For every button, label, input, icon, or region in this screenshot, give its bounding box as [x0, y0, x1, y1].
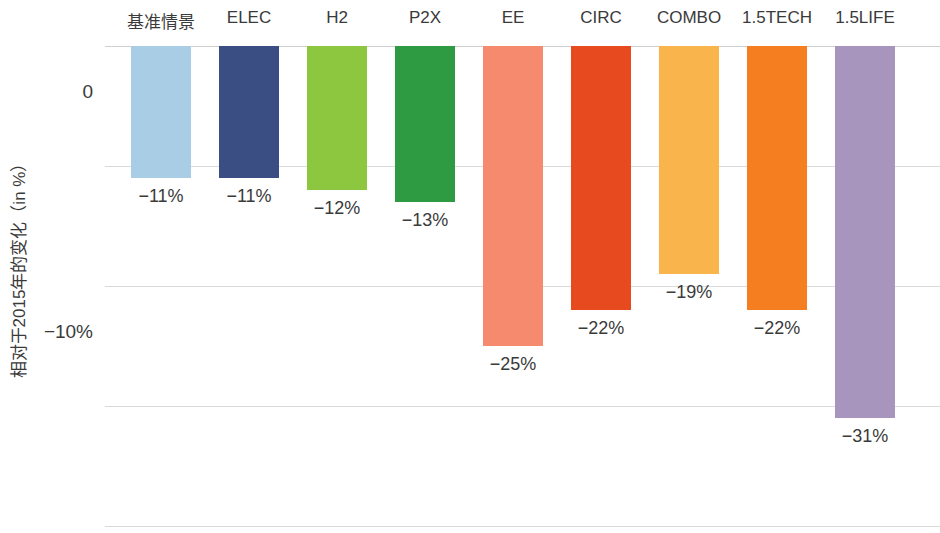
plot-area: 0−10%−20%−30%−40%基准情景−11%ELEC−11%H2−12%P… [105, 0, 940, 533]
bar-value-label: −25% [490, 354, 537, 375]
category-label: CIRC [580, 8, 622, 28]
bar[interactable] [835, 46, 895, 418]
category-label: H2 [326, 8, 348, 28]
category-label: ELEC [227, 8, 271, 28]
bar[interactable] [483, 46, 543, 346]
bar-chart: 相对于2015年的变化（in %） 0−10%−20%−30%−40%基准情景−… [0, 0, 940, 533]
bar[interactable] [747, 46, 807, 310]
bar-value-label: −13% [402, 210, 449, 231]
bar-value-label: −22% [578, 318, 625, 339]
bar-value-label: −11% [226, 186, 271, 207]
y-axis-tick-label: −10% [44, 321, 93, 343]
gridline: −30% [105, 406, 940, 407]
y-axis-title: 相对于2015年的变化（in %） [0, 0, 34, 533]
category-label: EE [502, 8, 525, 28]
category-label: 1.5LIFE [835, 8, 895, 28]
category-label: 基准情景 [127, 8, 195, 33]
category-label: 1.5TECH [742, 8, 812, 28]
bar[interactable] [131, 46, 191, 178]
gridline: −40% [105, 526, 940, 527]
bar[interactable] [307, 46, 367, 190]
bar[interactable] [659, 46, 719, 274]
bar-value-label: −11% [138, 186, 183, 207]
category-label: P2X [409, 8, 441, 28]
bar[interactable] [571, 46, 631, 310]
bar[interactable] [395, 46, 455, 202]
category-label: COMBO [657, 8, 721, 28]
bar-value-label: −22% [754, 318, 801, 339]
bar-value-label: −31% [842, 426, 889, 447]
y-axis-tick-label: 0 [82, 81, 93, 103]
bar-value-label: −12% [314, 198, 361, 219]
bar[interactable] [219, 46, 279, 178]
bar-value-label: −19% [666, 282, 713, 303]
